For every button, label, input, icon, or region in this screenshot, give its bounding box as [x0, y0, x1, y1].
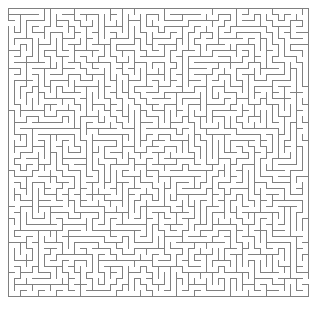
maze-canvas [0, 0, 323, 310]
maze-figure [0, 0, 323, 310]
